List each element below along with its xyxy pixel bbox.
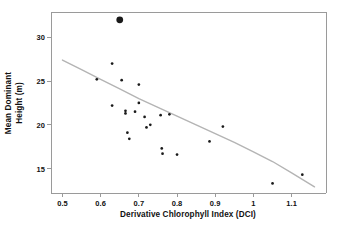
data-point: [126, 131, 129, 134]
data-point: [159, 114, 162, 117]
tick-marks: [47, 37, 292, 197]
data-point: [176, 153, 179, 156]
data-point: [111, 62, 114, 65]
trend-line-path: [62, 60, 314, 187]
data-point: [111, 104, 114, 107]
y-axis-title-line-2: Height (m): [14, 72, 25, 134]
y-axis-title: Mean Dominant Height (m): [4, 72, 25, 134]
trend-curve: [62, 60, 314, 187]
data-point: [301, 173, 304, 176]
data-point: [143, 116, 146, 119]
x-tick-label: 0.6: [95, 199, 106, 208]
scatter-chart-figure: 0.50.60.70.80.911.1 15202530 Derivative …: [0, 0, 342, 228]
y-tick-label: 20: [29, 120, 45, 129]
y-tick-label: 30: [29, 33, 45, 42]
data-points: [95, 16, 303, 184]
data-point: [138, 102, 141, 105]
data-point: [138, 83, 141, 86]
plot-canvas: [0, 0, 342, 228]
data-point-highlight: [116, 16, 123, 23]
data-point: [95, 78, 98, 81]
data-point: [120, 79, 123, 82]
data-point: [222, 125, 225, 128]
data-point: [168, 113, 171, 116]
y-tick-label: 25: [29, 77, 45, 86]
data-point: [208, 140, 211, 143]
data-point: [271, 182, 274, 185]
data-point: [149, 123, 152, 126]
data-point: [134, 110, 137, 113]
axes-frame: [51, 12, 326, 193]
data-point: [145, 126, 148, 129]
x-tick-label: 1: [251, 199, 255, 208]
y-axis-title-line-1: Mean Dominant: [4, 72, 15, 134]
data-point: [160, 147, 163, 150]
x-tick-label: 0.5: [57, 199, 68, 208]
y-tick-label: 15: [29, 164, 45, 173]
x-tick-label: 1.1: [286, 199, 297, 208]
data-point: [124, 109, 127, 112]
data-point: [161, 152, 164, 155]
x-tick-label: 0.7: [133, 199, 144, 208]
x-tick-label: 0.8: [172, 199, 183, 208]
x-axis-title: Derivative Chlorophyll Index (DCI): [120, 210, 256, 219]
data-point: [124, 112, 127, 115]
x-tick-label: 0.9: [210, 199, 221, 208]
data-point: [128, 137, 131, 140]
